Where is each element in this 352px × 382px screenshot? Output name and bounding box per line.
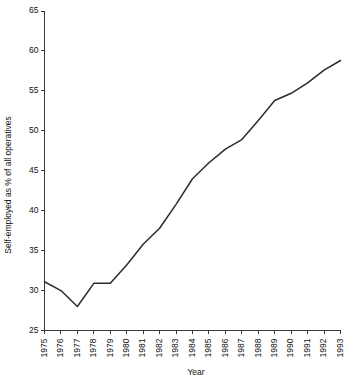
y-tick-label: 45 (29, 165, 39, 175)
y-tick-label: 60 (29, 45, 39, 55)
x-tick-label: 1988 (253, 338, 263, 357)
x-tick-label: 1984 (187, 338, 197, 357)
x-tick-label: 1990 (285, 338, 295, 357)
x-tick-label: 1983 (170, 338, 180, 357)
y-axis: 253035404550556065 (29, 5, 44, 335)
x-tick-label: 1975 (39, 338, 49, 357)
x-axis-ticks (45, 331, 341, 335)
x-axis-title: Year (187, 367, 204, 377)
x-tick-label: 1982 (154, 338, 164, 357)
y-axis-ticks (41, 11, 45, 331)
x-tick-label: 1985 (203, 338, 213, 357)
y-axis-tick-labels: 253035404550556065 (29, 5, 39, 335)
data-series-line (45, 61, 341, 307)
x-tick-label: 1980 (121, 338, 131, 357)
y-axis-title: Self-employed as % of all operatives (3, 116, 13, 254)
x-tick-label: 1993 (335, 338, 345, 357)
x-tick-label: 1977 (72, 338, 82, 357)
y-tick-label: 65 (29, 5, 39, 15)
chart-figure: 253035404550556065 197519761977197819791… (0, 0, 352, 382)
y-tick-label: 35 (29, 245, 39, 255)
line-chart-plot: 253035404550556065 197519761977197819791… (0, 0, 352, 382)
x-axis: 1975197619771978197919801981198219831984… (39, 331, 345, 358)
x-tick-label: 1987 (236, 338, 246, 357)
y-tick-label: 55 (29, 85, 39, 95)
x-tick-label: 1991 (302, 338, 312, 357)
x-tick-label: 1978 (88, 338, 98, 357)
x-tick-label: 1979 (105, 338, 115, 357)
y-tick-label: 50 (29, 125, 39, 135)
x-tick-label: 1976 (55, 338, 65, 357)
y-tick-label: 40 (29, 205, 39, 215)
x-tick-label: 1981 (137, 338, 147, 357)
x-axis-tick-labels: 1975197619771978197919801981198219831984… (39, 338, 345, 357)
x-tick-label: 1992 (318, 338, 328, 357)
x-tick-label: 1989 (269, 338, 279, 357)
y-tick-label: 30 (29, 285, 39, 295)
x-tick-label: 1986 (220, 338, 230, 357)
y-tick-label: 25 (29, 325, 39, 335)
